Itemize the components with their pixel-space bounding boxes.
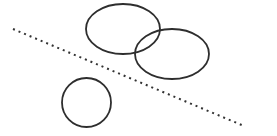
ellipse-right [135, 29, 209, 79]
diagram-canvas [0, 0, 277, 136]
circle-bottom [62, 78, 111, 127]
dotted-diagonal-line [13, 29, 244, 126]
ellipse-top [86, 4, 160, 54]
